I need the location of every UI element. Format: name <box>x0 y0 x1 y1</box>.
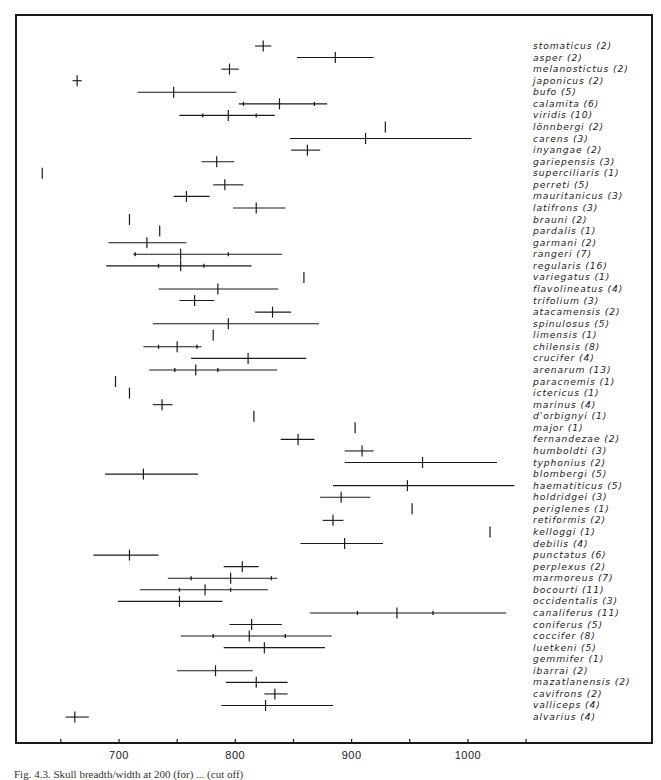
species-label: stomaticus (2) <box>533 40 612 51</box>
species-label: alvarius (4) <box>533 711 596 722</box>
species-label: valliceps (4) <box>533 699 601 710</box>
x-tick-label: 800 <box>225 749 245 761</box>
species-label: viridis (10) <box>533 109 593 120</box>
species-label: latifrons (3) <box>533 202 598 213</box>
species-label: spinulosus (5) <box>533 318 610 329</box>
species-label: lönnbergi (2) <box>533 121 604 132</box>
species-label: chilensis (8) <box>533 341 600 352</box>
figure-caption: Fig. 4.3. Skull breadth/width at 200 (fo… <box>14 768 243 780</box>
species-label: canaliferus (11) <box>533 607 620 618</box>
species-label: brauni (2) <box>533 214 587 225</box>
x-tick-label: 700 <box>109 749 129 761</box>
species-label: major (1) <box>533 422 584 433</box>
species-label: paracnemis (1) <box>533 376 615 387</box>
species-label: rangeri (7) <box>533 248 592 259</box>
species-label: marinus (4) <box>533 399 596 410</box>
species-label: garmani (2) <box>533 237 597 248</box>
species-label: debilis (4) <box>533 538 589 549</box>
species-label: retiformis (2) <box>533 514 606 525</box>
species-label: gariepensis (3) <box>533 156 615 167</box>
species-label: japonicus (2) <box>533 75 604 86</box>
species-label: typhonius (2) <box>533 457 606 468</box>
species-label: holdridgei (3) <box>533 491 608 502</box>
species-label: perreti (5) <box>533 179 590 190</box>
species-label: trifolium (3) <box>533 295 599 306</box>
species-label: punctatus (6) <box>533 549 607 560</box>
species-label: haematiticus (5) <box>533 480 623 491</box>
species-label: blombergi (5) <box>533 468 607 479</box>
species-label: variegatus (1) <box>533 271 610 282</box>
species-label: occidentalis (3) <box>533 595 618 606</box>
x-tick-label: 1000 <box>455 749 481 761</box>
x-tick-label: 900 <box>342 749 362 761</box>
species-label: crucifer (4) <box>533 352 595 363</box>
species-label: mazatlanensis (2) <box>533 676 630 687</box>
species-label: regularis (16) <box>533 260 608 271</box>
species-label: asper (2) <box>533 52 583 63</box>
species-label: cavifrons (2) <box>533 688 603 699</box>
species-label: kelloggi (1) <box>533 526 596 537</box>
species-label: pardalis (1) <box>533 225 596 236</box>
species-label: humboldti (3) <box>533 445 607 456</box>
species-label: coniferus (5) <box>533 619 603 630</box>
species-label: carens (3) <box>533 133 589 144</box>
species-label: ictericus (1) <box>533 387 599 398</box>
species-label: d'orbignyi (1) <box>533 410 607 421</box>
species-label: bocourti (11) <box>533 584 604 595</box>
species-label: inyangae (2) <box>533 144 602 155</box>
species-label: flavolineatus (4) <box>533 283 623 294</box>
species-label: gemmifer (1) <box>533 653 604 664</box>
species-label: periglenes (1) <box>533 503 610 514</box>
species-label: arenarum (13) <box>533 364 612 375</box>
species-label: melanostictus (2) <box>533 63 629 74</box>
species-label: bufo (5) <box>533 86 577 97</box>
species-label: perplexus (2) <box>533 561 606 572</box>
species-label: atacamensis (2) <box>533 306 621 317</box>
species-label: limensis (1) <box>533 329 597 340</box>
species-label: coccifer (8) <box>533 630 596 641</box>
species-label: fernandezae (2) <box>533 433 620 444</box>
species-label: mauritanicus (3) <box>533 190 623 201</box>
species-label: ibarrai (2) <box>533 665 589 676</box>
species-label: luetkeni (5) <box>533 642 597 653</box>
species-label: marmoreus (7) <box>533 572 614 583</box>
species-label: superciliaris (1) <box>533 167 620 178</box>
species-label: calamita (6) <box>533 98 599 109</box>
